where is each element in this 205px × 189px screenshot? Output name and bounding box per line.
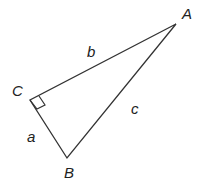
triangle-outline: [30, 24, 176, 158]
side-label-b: b: [87, 43, 95, 60]
triangle-svg: A C B b c a: [0, 0, 205, 189]
right-angle-marker: [30, 96, 45, 109]
side-label-a: a: [27, 128, 35, 145]
triangle-diagram: A C B b c a: [0, 0, 205, 189]
vertex-label-c: C: [12, 82, 23, 99]
side-label-c: c: [131, 100, 139, 117]
vertex-label-b: B: [64, 164, 74, 181]
vertex-label-a: A: [181, 5, 192, 22]
